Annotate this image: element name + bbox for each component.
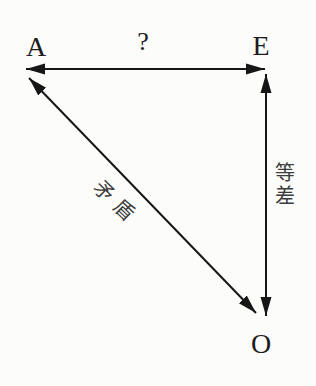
opposition-diagram: A E O ? 等差 矛盾	[0, 0, 316, 386]
edge-a-o-arrow	[29, 78, 256, 313]
node-label-e: E	[249, 32, 273, 60]
node-label-a: A	[24, 33, 48, 61]
edge-label-dengcha: 等差	[272, 162, 294, 208]
edge-label-question-mark: ?	[133, 29, 153, 55]
node-label-o: O	[249, 330, 273, 358]
